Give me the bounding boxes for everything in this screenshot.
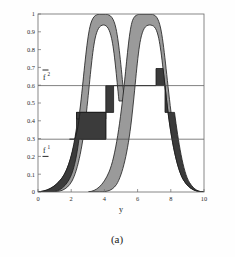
alpha-cut-label-superscript: 1 xyxy=(48,144,51,150)
y-tick-label: 0.4 xyxy=(27,117,36,124)
y-tick-label: 0.1 xyxy=(27,171,35,178)
y-tick-label: 0.3 xyxy=(27,135,35,142)
y-tick-label: 1 xyxy=(32,10,35,17)
y-tick-label: 0.7 xyxy=(27,64,36,71)
y-tick-label: 0 xyxy=(32,188,35,195)
y-tick-label: 0.6 xyxy=(27,82,35,89)
x-tick-label: 10 xyxy=(201,195,207,202)
x-tick-label: 6 xyxy=(136,195,139,202)
x-tick-label: 2 xyxy=(70,195,73,202)
figure-container: 1 0.9 0.8 0.7 0.6 0.5 0.4 0.3 0.2 0.1 0 … xyxy=(0,0,235,257)
x-tick-label: 8 xyxy=(169,195,172,202)
x-tick-label: 0 xyxy=(36,195,39,202)
chart-canvas: 1 0.9 0.8 0.7 0.6 0.5 0.4 0.3 0.2 0.1 0 … xyxy=(0,0,235,257)
figure-caption: (a) xyxy=(111,233,124,246)
y-tick-label: 0.2 xyxy=(27,153,35,160)
y-tick-label: 0.8 xyxy=(27,46,35,53)
y-tick-label: 0.9 xyxy=(27,28,35,35)
y-tick-label: 0.5 xyxy=(27,99,35,106)
alpha-cut-label-superscript: 2 xyxy=(48,71,51,77)
